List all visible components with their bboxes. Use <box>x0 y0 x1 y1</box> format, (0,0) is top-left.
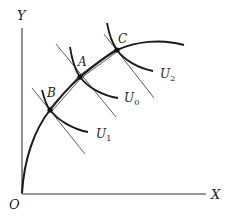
u0-label: U0 <box>124 91 139 107</box>
point-a-label: A <box>77 55 87 69</box>
point-c <box>114 47 119 52</box>
point-a <box>77 74 82 79</box>
indifference-curves <box>42 23 153 132</box>
u2-label: U2 <box>160 67 175 83</box>
point-c-label: C <box>118 32 127 46</box>
x-axis-label: X <box>210 187 221 202</box>
origin-label: O <box>9 197 20 212</box>
point-b <box>47 107 52 112</box>
ppf-indifference-diagram: Y X O B A C U1 U0 U2 <box>0 0 235 217</box>
point-b-label: B <box>46 86 56 100</box>
u1-label: U1 <box>96 127 111 143</box>
y-axis-label: Y <box>17 8 27 23</box>
production-possibility-curve <box>22 41 184 193</box>
axes: Y X O <box>9 8 221 212</box>
tangent-line-c <box>104 34 154 98</box>
